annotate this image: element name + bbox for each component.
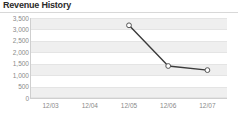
y-tick-label: 1,000 bbox=[1, 72, 29, 79]
x-tick-label: 12/07 bbox=[187, 101, 227, 110]
x-axis-line bbox=[31, 98, 227, 99]
revenue-markers bbox=[127, 23, 210, 73]
y-tick-label: 2,000 bbox=[1, 49, 29, 56]
series-layer bbox=[31, 18, 227, 98]
y-tick-label: 3,000 bbox=[1, 26, 29, 33]
page-title: Revenue History bbox=[3, 0, 71, 11]
data-point-marker bbox=[205, 68, 210, 73]
x-tick-label: 12/06 bbox=[148, 101, 188, 110]
title-divider bbox=[0, 12, 238, 13]
data-point-marker bbox=[127, 23, 132, 28]
y-tick-label: 3,500 bbox=[1, 15, 29, 22]
y-tick-label: 0 bbox=[1, 95, 29, 102]
y-tick-label: 2,500 bbox=[1, 37, 29, 44]
x-tick-label: 12/03 bbox=[31, 101, 71, 110]
y-tick-label: 500 bbox=[1, 83, 29, 90]
x-tick-label: 12/04 bbox=[70, 101, 110, 110]
revenue-history-widget: Revenue History 3,5003,0002,5002,0001,50… bbox=[0, 0, 238, 114]
y-tick-label: 1,500 bbox=[1, 60, 29, 67]
data-point-marker bbox=[166, 64, 171, 69]
y-axis-tick-labels: 3,5003,0002,5002,0001,5001,0005000 bbox=[0, 18, 29, 98]
line-chart: 3,5003,0002,5002,0001,5001,0005000 12/03… bbox=[0, 15, 238, 114]
x-axis-tick-labels: 12/0312/0412/0512/0612/07 bbox=[31, 101, 227, 113]
x-tick-label: 12/05 bbox=[109, 101, 149, 110]
